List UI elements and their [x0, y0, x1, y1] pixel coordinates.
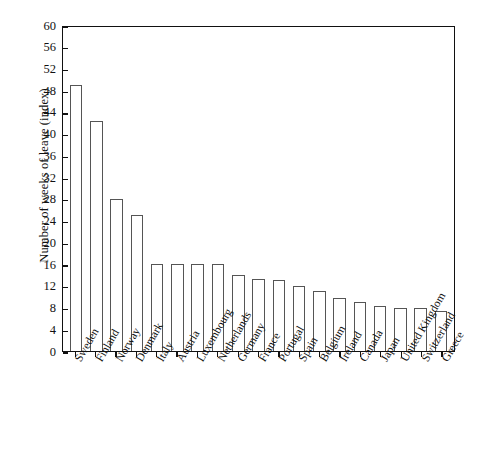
bar-column	[289, 27, 309, 351]
x-label-slot: Sweden	[65, 356, 85, 456]
x-label-slot: Ireland	[330, 356, 350, 456]
x-label-slot: Norway	[106, 356, 126, 456]
y-tick-label: 16	[44, 258, 57, 273]
y-tick-label: 8	[50, 301, 56, 316]
bar-column	[411, 27, 431, 351]
y-tick-label: 20	[44, 236, 57, 251]
x-label-slot: Japan	[371, 356, 391, 456]
bar-column	[86, 27, 106, 351]
bar-column	[329, 27, 349, 351]
y-tick-label: 40	[44, 127, 57, 142]
x-label-slot: Spain	[289, 356, 309, 456]
bar-column	[350, 27, 370, 351]
bar-series	[63, 27, 454, 351]
bar	[171, 264, 184, 351]
y-tick-label: 28	[44, 192, 57, 207]
x-label-slot: Austria	[167, 356, 187, 456]
y-tick-label: 0	[50, 345, 56, 360]
bar-column	[370, 27, 390, 351]
x-label-slot: Switzerland	[411, 356, 431, 456]
x-label-slot: Finland	[85, 356, 105, 456]
bar-column	[147, 27, 167, 351]
y-tick-label: 4	[50, 323, 56, 338]
x-label-slot: Italy	[147, 356, 167, 456]
x-label-slot: Netherlands	[208, 356, 228, 456]
x-label-slot: Greece	[432, 356, 452, 456]
bar-column	[127, 27, 147, 351]
x-label-slot: France	[248, 356, 268, 456]
plot-area: 04812162024283236404448525660	[62, 26, 455, 352]
y-tick-label: 60	[44, 19, 57, 34]
bar-column	[66, 27, 86, 351]
y-tick-label: 24	[44, 214, 57, 229]
bar-column	[228, 27, 248, 351]
y-tick-label: 32	[44, 171, 57, 186]
y-tick-label: 44	[44, 105, 57, 120]
bar-column	[167, 27, 187, 351]
x-label-slot: Canada	[350, 356, 370, 456]
x-label-slot: Portugal	[269, 356, 289, 456]
bar-column	[390, 27, 410, 351]
bar-column	[309, 27, 329, 351]
y-tick-label: 36	[44, 149, 57, 164]
bar	[90, 121, 103, 351]
x-label-slot: Denmark	[126, 356, 146, 456]
x-label-slot: Luxembourg	[187, 356, 207, 456]
x-axis-labels: SwedenFinlandNorwayDenmarkItalyAustriaLu…	[62, 356, 455, 456]
x-label-slot: Germany	[228, 356, 248, 456]
y-tick-label: 12	[44, 279, 57, 294]
bar-column	[188, 27, 208, 351]
bar-chart-figure: Number of weeks of leave (index) 0481216…	[0, 0, 484, 456]
bar-column	[208, 27, 228, 351]
bar-column	[269, 27, 289, 351]
x-label-slot: Belgium	[310, 356, 330, 456]
bar-column	[107, 27, 127, 351]
y-tick-label: 52	[44, 62, 57, 77]
bar	[70, 85, 83, 351]
y-tick-label: 56	[44, 40, 57, 55]
bar-column	[248, 27, 268, 351]
y-tick-label: 48	[44, 84, 57, 99]
x-label-slot: United Kingdom	[391, 356, 411, 456]
